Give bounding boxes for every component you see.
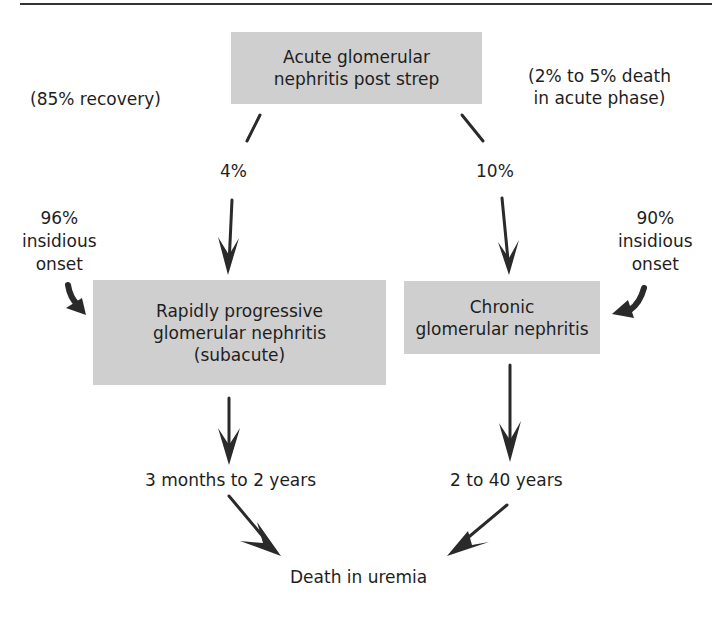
arrowhead-icon — [218, 237, 239, 275]
arrowhead-icon — [447, 531, 489, 556]
arrowhead-icon — [498, 240, 519, 275]
arrowhead-icon — [240, 522, 281, 556]
arrowhead-icon — [612, 300, 634, 318]
connector-line — [462, 115, 483, 141]
curved-arrow-icon — [630, 288, 644, 310]
connector-line — [247, 115, 260, 141]
arrows-layer — [0, 0, 716, 621]
